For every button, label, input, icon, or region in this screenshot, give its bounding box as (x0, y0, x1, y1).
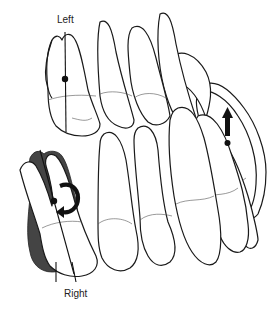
upper-tooth-1-left (45, 32, 100, 136)
lower-tooth-2 (98, 132, 138, 270)
dental-diagram: Left Right (0, 0, 279, 309)
left-tooth-center-dot (62, 76, 68, 82)
label-left: Left (57, 14, 74, 25)
up-arrow-shaft (225, 116, 230, 136)
label-right: Right (64, 288, 87, 299)
extrusion-dot (225, 140, 231, 146)
lower-tooth-1-rotated (20, 150, 97, 282)
right-tooth-center-dot (51, 198, 57, 204)
teeth-illustration (0, 0, 279, 309)
